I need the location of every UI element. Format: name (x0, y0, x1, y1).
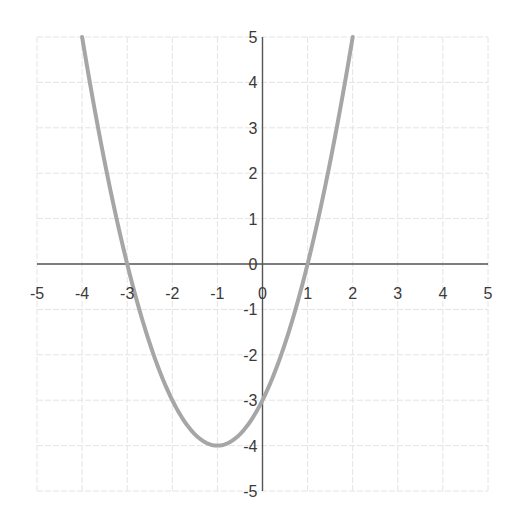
y-tick-label: 1 (249, 211, 258, 228)
y-tick-label: 3 (249, 120, 258, 137)
axes (37, 37, 488, 491)
y-tick-label: 2 (249, 165, 258, 182)
x-tick-label: -2 (165, 285, 179, 302)
y-tick-label: 0 (249, 256, 258, 273)
x-tick-label: 1 (303, 285, 312, 302)
x-tick-label: 2 (348, 285, 357, 302)
x-tick-label: 4 (438, 285, 447, 302)
y-tick-label: -5 (243, 483, 257, 500)
y-tick-label: -3 (243, 392, 257, 409)
x-axis-tick-labels: -5-4-3-2-1012345 (30, 285, 493, 302)
y-tick-label: 4 (249, 74, 258, 91)
chart: -5-4-3-2-1012345 -5-4-3-2-1012345 (0, 0, 516, 531)
y-tick-label: -2 (243, 347, 257, 364)
y-tick-label: 5 (249, 29, 258, 46)
x-tick-label: -3 (120, 285, 134, 302)
y-tick-label: -1 (243, 301, 257, 318)
x-tick-label: -1 (210, 285, 224, 302)
x-tick-label: -5 (30, 285, 44, 302)
x-tick-label: 3 (393, 285, 402, 302)
x-tick-label: -4 (75, 285, 89, 302)
x-tick-label: 5 (484, 285, 493, 302)
y-tick-label: -4 (243, 438, 257, 455)
x-tick-label: 0 (258, 285, 267, 302)
